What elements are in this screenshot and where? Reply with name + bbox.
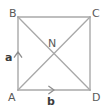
vertex-label-C: C — [92, 8, 100, 19]
vertex-label-A: A — [8, 92, 16, 103]
point-label-N: N — [48, 38, 56, 49]
vector-label-b: b — [47, 96, 55, 107]
geometry-figure: B C D A N a b — [0, 0, 105, 112]
vertex-label-B: B — [9, 8, 17, 19]
diagonals — [18, 17, 90, 90]
vertex-label-D: D — [92, 92, 100, 103]
vector-label-a: a — [5, 52, 12, 63]
